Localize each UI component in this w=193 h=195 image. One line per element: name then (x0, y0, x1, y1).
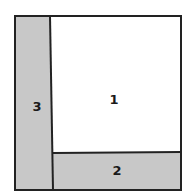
region-2-label: 2 (112, 163, 121, 178)
horizontal-divider (53, 152, 181, 153)
region-1 (50, 16, 181, 153)
region-1-label: 1 (109, 92, 118, 107)
partition-diagram: 1 2 3 (0, 0, 193, 195)
region-3-label: 3 (32, 99, 41, 114)
